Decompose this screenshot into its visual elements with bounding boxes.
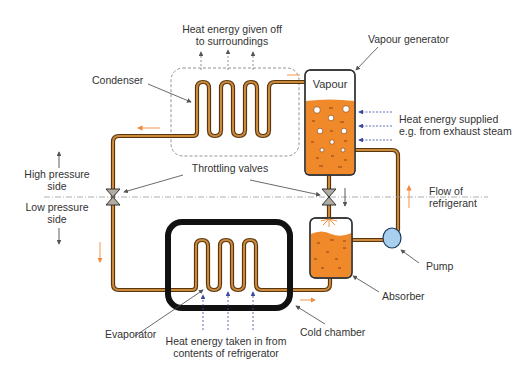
cold-chamber	[168, 222, 290, 308]
flow-of-refrigerant-label-1: Flow of	[429, 185, 463, 197]
heat-supplied-label-1: Heat energy supplied	[399, 113, 498, 125]
heat-given-off-arrows	[201, 50, 253, 70]
low-pressure-label-1: Low pressure	[25, 201, 88, 213]
low-pressure-label-2: side	[47, 213, 66, 225]
vapour-label: Vapour	[313, 78, 348, 90]
condenser-label: Condenser	[92, 74, 144, 86]
absorber-label: Absorber	[382, 290, 425, 302]
heat-given-off-label-1: Heat energy given off	[182, 23, 282, 35]
heat-taken-label-1: Heat energy taken in from	[166, 335, 287, 347]
heat-supplied-label-2: e.g. from exhaust steam	[399, 125, 512, 137]
absorber	[310, 218, 352, 278]
pump-label: Pump	[426, 260, 454, 272]
vapour-generator-label: Vapour generator	[368, 33, 449, 45]
high-pressure-label-1: High pressure	[24, 168, 90, 180]
heat-given-off-label-2: to surroundings	[196, 35, 268, 47]
absorption-refrigerator-diagram: Vapour	[0, 0, 532, 375]
vapour-generator: Vapour	[305, 70, 355, 175]
heat-taken-label-2: contents of refrigerator	[173, 347, 279, 359]
evaporator-label: Evaporator	[105, 328, 157, 340]
heat-supplied-arrows	[359, 112, 392, 140]
pump	[383, 228, 401, 248]
flow-of-refrigerant-label-2: refrigerant	[429, 197, 477, 209]
high-pressure-label-2: side	[47, 180, 66, 192]
throttling-valves-label: Throttling valves	[192, 162, 268, 174]
cold-chamber-label: Cold chamber	[300, 326, 366, 338]
